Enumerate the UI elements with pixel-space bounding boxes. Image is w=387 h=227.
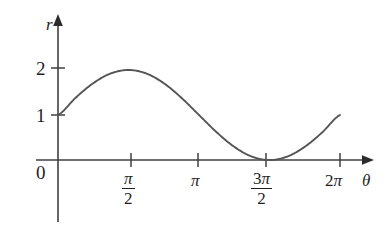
y-axis-label: r <box>46 16 53 33</box>
three-pi-over-2-denominator: 2 <box>251 189 272 207</box>
pi-over-2-numerator: π <box>124 169 133 188</box>
three-pi-over-2-numerator: π <box>262 169 271 188</box>
origin-label: 0 <box>36 163 46 182</box>
polar-function-figure: r θ 0 2 1 π 2 π 3π 2 2π <box>0 0 387 227</box>
y-axis-arrowhead <box>53 14 63 26</box>
x-axis-arrowhead <box>362 155 374 165</box>
x-tick-label-pi-over-2: π 2 <box>122 170 135 207</box>
y-tick-label-2: 2 <box>36 59 46 78</box>
x-tick-label-3pi-over-2: 3π 2 <box>251 170 272 207</box>
y-tick-label-1: 1 <box>36 106 46 125</box>
two-pi-symbol: π <box>334 171 343 190</box>
two-pi-coefficient: 2 <box>325 171 334 190</box>
pi-over-2-denominator: 2 <box>122 189 135 207</box>
plot-canvas <box>0 0 387 227</box>
curve-r-equals-1-plus-sin-theta <box>58 70 340 160</box>
three-pi-over-2-coefficient: 3 <box>253 169 262 188</box>
x-axis-label: θ <box>362 172 370 189</box>
x-tick-label-2pi: 2π <box>325 172 342 189</box>
x-tick-label-pi: π <box>191 172 200 189</box>
